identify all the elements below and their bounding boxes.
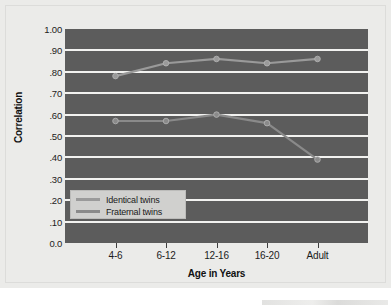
page-edge-artifact	[262, 300, 388, 305]
data-point	[113, 118, 119, 124]
data-point	[264, 60, 270, 66]
legend-swatch-fraternal-twins	[76, 210, 100, 213]
y-tick-label: .10	[49, 216, 62, 227]
chart-figure: Correlation 1.00.90.80.70.60.50.40.30.20…	[0, 0, 391, 288]
x-tick-label: 16-20	[255, 250, 280, 261]
series-line-fraternal-twins	[116, 115, 318, 160]
y-tick-label: 1.00	[44, 24, 62, 35]
y-tick-label: .50	[49, 131, 62, 142]
data-point	[214, 56, 220, 62]
legend-label-fraternal-twins: Fraternal twins	[106, 207, 162, 217]
data-point	[264, 120, 270, 126]
y-tick-label: 0.0	[49, 238, 62, 249]
data-point	[113, 73, 119, 79]
y-tick-label: .60	[49, 109, 62, 120]
legend-label-identical-twins: Identical twins	[106, 195, 160, 205]
x-tick	[318, 243, 319, 248]
legend-item: Fraternal twins	[76, 206, 180, 217]
data-point	[163, 118, 169, 124]
x-tick	[116, 243, 117, 248]
y-tick-label: .80	[49, 66, 62, 77]
y-tick-label: .90	[49, 45, 62, 56]
x-tick-label: Adult	[307, 250, 329, 261]
data-point	[214, 112, 220, 118]
x-tick-label: 6-12	[156, 250, 175, 261]
x-tick	[217, 243, 218, 248]
x-tick-label: 12-16	[204, 250, 229, 261]
chart-legend: Identical twins Fraternal twins	[70, 190, 186, 219]
legend-item: Identical twins	[76, 194, 180, 205]
x-axis-tick-labels: 4-66-1212-1616-20Adult	[65, 250, 368, 264]
x-axis-title: Age in Years	[65, 268, 368, 279]
legend-swatch-identical-twins	[76, 198, 100, 201]
x-tick-label: 4-6	[109, 250, 123, 261]
data-point	[315, 56, 321, 62]
y-axis-tick-labels: 1.00.90.80.70.60.50.40.30.20.100.0	[22, 29, 62, 243]
x-tick	[267, 243, 268, 248]
data-point	[315, 157, 321, 163]
x-tick	[166, 243, 167, 248]
y-tick-label: .40	[49, 152, 62, 163]
data-point	[163, 60, 169, 66]
x-axis-ticks	[65, 243, 368, 248]
y-tick-label: .30	[49, 173, 62, 184]
y-tick-label: .70	[49, 88, 62, 99]
y-tick-label: .20	[49, 195, 62, 206]
plot-area: Identical twins Fraternal twins	[65, 29, 368, 243]
